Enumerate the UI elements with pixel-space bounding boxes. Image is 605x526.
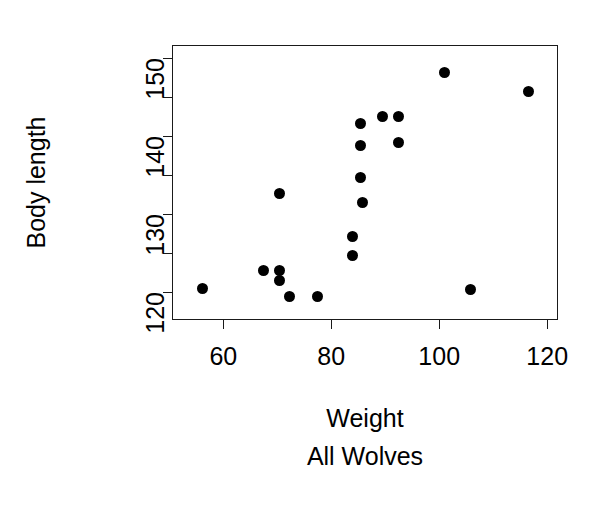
- x-axis-tick-label: 120: [526, 342, 568, 371]
- scatter-plot-figure: 120130140150 6080100120 Body length Weig…: [0, 0, 605, 526]
- data-point: [355, 140, 366, 151]
- x-axis-tick-label: 80: [317, 342, 345, 371]
- x-axis-tick: [223, 320, 224, 329]
- data-point: [355, 118, 366, 129]
- x-axis-subtitle: All Wolves: [172, 438, 558, 474]
- data-point: [347, 250, 358, 261]
- data-point: [377, 111, 388, 122]
- data-point: [284, 291, 295, 302]
- x-axis-tick-label: 60: [209, 342, 237, 371]
- y-axis-title: Body length: [14, 45, 58, 320]
- data-point: [312, 291, 323, 302]
- data-point: [347, 231, 358, 242]
- data-point: [355, 172, 366, 183]
- x-axis-title: Weight: [172, 400, 558, 436]
- y-axis-tick-label: 150: [142, 58, 171, 100]
- data-point: [523, 86, 534, 97]
- data-point: [357, 197, 368, 208]
- data-point: [197, 283, 208, 294]
- x-axis-tick: [547, 320, 548, 329]
- data-point: [439, 67, 450, 78]
- data-point: [393, 137, 404, 148]
- data-point: [274, 188, 285, 199]
- data-point: [274, 265, 285, 276]
- x-axis-tick-label: 100: [418, 342, 460, 371]
- plot-area: 120130140150 6080100120: [172, 45, 558, 320]
- x-axis-tick: [439, 320, 440, 329]
- y-axis-tick-label: 130: [142, 214, 171, 256]
- data-point: [274, 275, 285, 286]
- data-point: [393, 111, 404, 122]
- y-axis-tick-label: 140: [142, 136, 171, 178]
- data-point: [258, 265, 269, 276]
- data-point: [465, 284, 476, 295]
- y-axis-tick-label: 120: [142, 292, 171, 334]
- x-axis-tick: [331, 320, 332, 329]
